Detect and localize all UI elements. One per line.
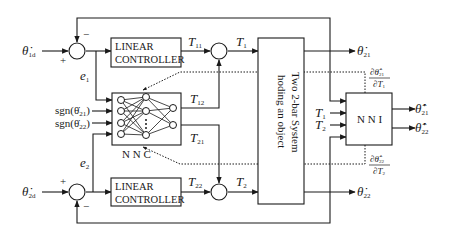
t21-line [176, 125, 219, 183]
nni-output-theta21-hat: θ̂̇21 [415, 101, 429, 117]
input-theta2d: θ̇2d [22, 184, 36, 200]
t11-label: T11 [188, 34, 202, 50]
theta21-to-nni-line [330, 51, 346, 101]
lc2-label-line2: CONTROLLER [115, 194, 184, 205]
output-theta22: θ̇22 [357, 184, 371, 200]
input-theta1d: θ̇1d [22, 43, 36, 59]
svg-text:∂T1: ∂T1 [373, 79, 385, 89]
t21-label: T21 [190, 130, 205, 146]
plus-sign-2: + [60, 175, 66, 187]
t12-label: T12 [190, 91, 205, 107]
jacobian-label-1: ∂θ̂̇21 ∂T1 [369, 67, 390, 89]
jacobian-path-2 [143, 145, 365, 164]
summing-junction-1 [69, 43, 85, 59]
jacobian-path-1 [143, 72, 365, 93]
svg-text:∂θ̂̇21: ∂θ̂̇21 [370, 67, 384, 77]
nni-label: N N I [357, 113, 382, 125]
e2-label: e2 [80, 155, 90, 171]
e1-to-nnc-line [96, 51, 112, 100]
t2-label: T2 [236, 174, 247, 190]
svg-text:∂θ̂̇22: ∂θ̂̇22 [370, 154, 384, 164]
summing-junction-2 [69, 184, 85, 200]
summing-junction-t1 [211, 43, 227, 59]
t1-label: T1 [236, 34, 247, 50]
minus-sign-1: − [83, 28, 89, 40]
jacobian-label-2: ∂θ̂̇22 ∂T2 [369, 154, 390, 176]
sgn-theta21-label: sgn(θ̇21) [55, 104, 90, 118]
e2-to-nnc-line [93, 134, 112, 192]
output-theta21: θ̇21 [357, 43, 371, 59]
nnc-label: N N C [122, 148, 151, 160]
lc1-label-line2: CONTROLLER [115, 54, 184, 65]
system-label-line2: hoding an object [276, 75, 288, 148]
svg-text:∂T2: ∂T2 [373, 166, 385, 176]
minus-sign-2: − [83, 200, 89, 212]
e1-label: e1 [80, 68, 90, 84]
lc2-label-line1: LINEAR [115, 181, 154, 192]
plus-sign-1: + [60, 54, 66, 66]
control-block-diagram: LINEAR CONTROLLER LINEAR CONTROLLER N N … [0, 0, 453, 237]
lc1-label-line1: LINEAR [115, 41, 154, 52]
system-label-line1: Two 2-bar System [290, 72, 302, 153]
t22-label: T22 [188, 174, 203, 190]
sgn-theta22-label: sgn(θ̇22) [55, 117, 90, 131]
nni-output-theta22-hat: θ̂̇22 [415, 120, 429, 136]
summing-junction-t2 [211, 184, 227, 200]
